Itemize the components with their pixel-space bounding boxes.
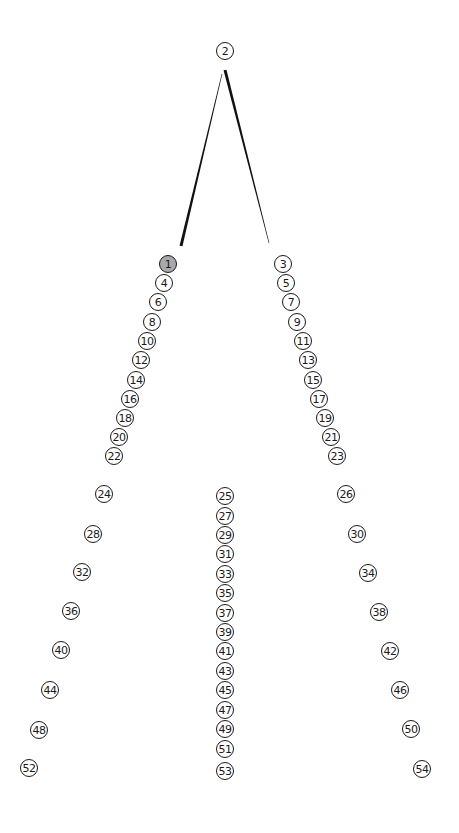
node-label: 5 <box>283 278 289 289</box>
tree-node-33[interactable]: 33 <box>216 565 234 583</box>
tree-node-34[interactable]: 34 <box>359 564 377 582</box>
tree-node-15[interactable]: 15 <box>304 371 322 389</box>
node-label: 54 <box>416 764 429 775</box>
node-label: 46 <box>394 685 407 696</box>
tree-node-2[interactable]: 2 <box>216 42 234 60</box>
tree-node-28[interactable]: 28 <box>84 525 102 543</box>
tree-node-36[interactable]: 36 <box>62 602 80 620</box>
node-label: 32 <box>76 567 89 578</box>
node-label: 21 <box>325 432 338 443</box>
tree-node-42[interactable]: 42 <box>381 642 399 660</box>
node-label: 36 <box>65 606 78 617</box>
tree-node-14[interactable]: 14 <box>127 371 145 389</box>
tree-node-22[interactable]: 22 <box>105 447 123 465</box>
node-label: 19 <box>319 413 332 424</box>
node-label: 28 <box>87 529 100 540</box>
node-label: 31 <box>219 549 232 560</box>
node-label: 24 <box>98 489 111 500</box>
edge-2-1 <box>180 74 223 246</box>
node-label: 47 <box>219 705 232 716</box>
node-label: 17 <box>313 394 326 405</box>
tree-node-7[interactable]: 7 <box>282 293 300 311</box>
tree-node-52[interactable]: 52 <box>20 759 38 777</box>
tree-node-10[interactable]: 10 <box>138 332 156 350</box>
node-label: 27 <box>219 511 232 522</box>
tree-node-25[interactable]: 25 <box>216 487 234 505</box>
tree-node-16[interactable]: 16 <box>121 390 139 408</box>
node-label: 20 <box>113 432 126 443</box>
tree-node-6[interactable]: 6 <box>149 293 167 311</box>
tree-node-11[interactable]: 11 <box>294 332 312 350</box>
tree-node-12[interactable]: 12 <box>132 351 150 369</box>
node-label: 33 <box>219 569 232 580</box>
tree-node-8[interactable]: 8 <box>143 313 161 331</box>
node-label: 18 <box>119 413 132 424</box>
node-label: 35 <box>219 588 232 599</box>
tree-node-31[interactable]: 31 <box>216 545 234 563</box>
node-label: 3 <box>280 259 286 270</box>
tree-node-53[interactable]: 53 <box>216 762 234 780</box>
tree-node-18[interactable]: 18 <box>116 409 134 427</box>
tree-node-37[interactable]: 37 <box>216 604 234 622</box>
tree-node-50[interactable]: 50 <box>402 720 420 738</box>
tree-node-27[interactable]: 27 <box>216 507 234 525</box>
node-label: 42 <box>384 646 397 657</box>
node-label: 51 <box>219 744 232 755</box>
tree-node-1[interactable]: 1 <box>159 255 177 273</box>
node-label: 22 <box>108 451 121 462</box>
node-label: 53 <box>219 766 232 777</box>
tree-node-45[interactable]: 45 <box>216 681 234 699</box>
tree-node-17[interactable]: 17 <box>310 390 328 408</box>
tree-node-9[interactable]: 9 <box>288 313 306 331</box>
tree-node-30[interactable]: 30 <box>348 525 366 543</box>
node-label: 45 <box>219 685 232 696</box>
node-label: 39 <box>219 627 232 638</box>
node-label: 25 <box>219 491 232 502</box>
tree-node-5[interactable]: 5 <box>277 274 295 292</box>
tree-node-41[interactable]: 41 <box>216 642 234 660</box>
node-label: 15 <box>307 375 320 386</box>
tree-node-39[interactable]: 39 <box>216 623 234 641</box>
tree-node-4[interactable]: 4 <box>155 274 173 292</box>
node-label: 12 <box>135 355 148 366</box>
node-label: 13 <box>302 355 315 366</box>
node-label: 8 <box>149 317 155 328</box>
tree-node-21[interactable]: 21 <box>322 428 340 446</box>
tree-node-46[interactable]: 46 <box>391 681 409 699</box>
node-label: 48 <box>33 725 46 736</box>
node-label: 29 <box>219 530 232 541</box>
node-label: 38 <box>373 607 386 618</box>
tree-node-24[interactable]: 24 <box>95 485 113 503</box>
node-label: 41 <box>219 646 232 657</box>
tree-node-20[interactable]: 20 <box>110 428 128 446</box>
tree-node-29[interactable]: 29 <box>216 526 234 544</box>
node-label: 26 <box>340 489 353 500</box>
node-label: 14 <box>130 375 143 386</box>
tree-node-47[interactable]: 47 <box>216 701 234 719</box>
tree-node-32[interactable]: 32 <box>73 563 91 581</box>
tree-node-44[interactable]: 44 <box>41 681 59 699</box>
node-label: 37 <box>219 608 232 619</box>
tree-node-23[interactable]: 23 <box>328 447 346 465</box>
node-label: 16 <box>124 394 137 405</box>
node-label: 6 <box>155 297 161 308</box>
tree-node-13[interactable]: 13 <box>299 351 317 369</box>
tree-node-38[interactable]: 38 <box>370 603 388 621</box>
tree-node-26[interactable]: 26 <box>337 485 355 503</box>
tree-node-51[interactable]: 51 <box>216 740 234 758</box>
node-label: 2 <box>222 46 228 57</box>
tree-node-49[interactable]: 49 <box>216 720 234 738</box>
tree-node-3[interactable]: 3 <box>274 255 292 273</box>
tree-node-54[interactable]: 54 <box>413 760 431 778</box>
tree-node-48[interactable]: 48 <box>30 721 48 739</box>
tree-node-43[interactable]: 43 <box>216 662 234 680</box>
tree-node-35[interactable]: 35 <box>216 584 234 602</box>
node-label: 7 <box>288 297 294 308</box>
tree-node-19[interactable]: 19 <box>316 409 334 427</box>
node-label: 10 <box>141 336 154 347</box>
tree-node-40[interactable]: 40 <box>52 641 70 659</box>
tree-diagram-canvas: 2146810121416182022357911131517192123242… <box>0 0 459 833</box>
node-label: 44 <box>44 685 57 696</box>
edge-2-3 <box>224 70 270 243</box>
node-label: 50 <box>405 724 418 735</box>
